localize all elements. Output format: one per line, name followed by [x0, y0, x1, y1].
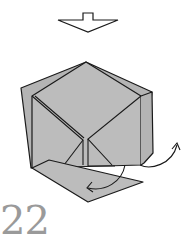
step-number: 22 [0, 200, 49, 240]
origami-diagram: 22 [0, 0, 196, 241]
bottom-flap [32, 160, 143, 202]
right-flap [141, 92, 153, 165]
hollow-down-arrow-icon [58, 13, 118, 32]
